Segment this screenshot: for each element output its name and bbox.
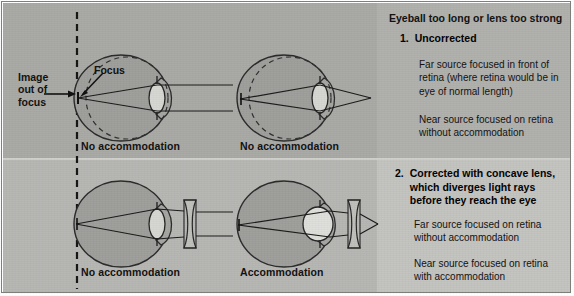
section-1-paragraph-2: Near source focused on retina without ac… [419, 113, 567, 140]
label-top-left-diagram: No accommodation [81, 140, 180, 153]
label-top-right-diagram: No accommodation [240, 140, 339, 153]
callout-image-out-of-focus: Image out of focus [18, 71, 64, 108]
section-2-paragraph-1: Far source focused on retina without acc… [414, 218, 566, 245]
section-2-number: 2. [395, 167, 404, 179]
figure-root: Image out of focus Focus No accommodatio… [0, 0, 574, 296]
section-divider [3, 158, 571, 160]
section-1-paragraph-1: Far source focused in front of retina (w… [419, 58, 567, 98]
section-1-number: 1. [400, 32, 409, 44]
callout-focus: Focus [94, 64, 125, 76]
callout-line-1: Image [18, 71, 64, 83]
callout-line-2: out of [18, 83, 64, 95]
label-bottom-left-diagram: No accommodation [81, 266, 180, 279]
section-1: 1. Uncorrected [400, 32, 568, 46]
section-2-paragraph-2: Near source focused on retina with accom… [414, 257, 566, 284]
label-bottom-right-diagram: Accommodation [240, 266, 324, 279]
section-1-heading: Uncorrected [415, 32, 477, 46]
callout-line-3: focus [18, 96, 64, 108]
figure-title: Eyeball too long or lens too strong [389, 12, 567, 25]
section-2-heading: Corrected with concave lens, which diver… [410, 167, 567, 208]
section-2: 2. Corrected with concave lens, which di… [395, 167, 567, 208]
